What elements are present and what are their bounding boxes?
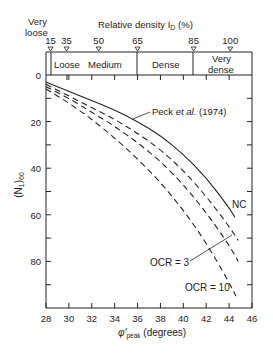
inner-minor-ticks xyxy=(69,75,229,80)
x-tick-label: 28 xyxy=(41,313,52,324)
x-axis-ticks: 28303234363840424446 xyxy=(41,303,258,324)
ocr3-label: OCR = 3 xyxy=(150,257,190,268)
x-tick-label: 38 xyxy=(155,313,166,324)
peck-leader-line xyxy=(133,112,150,119)
density-tick-label: 100 xyxy=(222,35,238,46)
zone-dense-label: Dense xyxy=(152,59,179,70)
x-tick-label: 34 xyxy=(109,313,120,324)
density-tick-marker xyxy=(96,47,101,51)
x-tick-label: 40 xyxy=(178,313,189,324)
y-axis-label: (N1)60 xyxy=(13,172,25,198)
density-tick-label: 50 xyxy=(93,35,104,46)
nc-label: NC xyxy=(232,199,246,210)
y-tick-label: 0 xyxy=(36,70,41,81)
density-tick-label: 35 xyxy=(61,35,72,46)
y-tick-label: 40 xyxy=(30,163,41,174)
top-axis-ticks: 1535506585100 xyxy=(45,35,238,51)
very-loose-label-2: loose xyxy=(25,27,48,38)
y-tick-label: 20 xyxy=(30,117,41,128)
x-tick-label: 32 xyxy=(86,313,97,324)
density-tick-marker xyxy=(48,47,53,51)
y-tick-label: 60 xyxy=(30,210,41,221)
density-tick-marker xyxy=(64,47,69,51)
x-tick-label: 30 xyxy=(64,313,75,324)
x-tick-label: 44 xyxy=(224,313,235,324)
zone-medium-label: Medium xyxy=(88,59,122,70)
density-tick-label: 85 xyxy=(188,35,199,46)
ocr10-label: OCR = 10 xyxy=(185,282,230,293)
y-tick-label: 80 xyxy=(30,256,41,267)
zone-loose-label: Loose xyxy=(54,59,80,70)
curve-ocr-10 xyxy=(46,89,236,296)
density-tick-marker xyxy=(228,47,233,51)
density-tick-label: 65 xyxy=(132,35,143,46)
chart: 1535506585100 Very loose Relative densit… xyxy=(0,0,273,356)
x-tick-label: 42 xyxy=(201,313,212,324)
x-tick-label: 46 xyxy=(247,313,258,324)
top-axis-title: Relative density ID (%) xyxy=(98,19,193,31)
density-tick-marker xyxy=(135,47,140,51)
y-axis-ticks: 020406080 xyxy=(30,70,252,285)
peck-label: Peck et al. (1974) xyxy=(152,106,226,117)
zone-very-dense-label-2: dense xyxy=(208,64,234,75)
very-loose-label-1: Very xyxy=(28,16,47,27)
zone-very-dense-label-1: Very xyxy=(212,53,231,64)
x-axis-label: φ'peak (degrees) xyxy=(118,327,186,340)
ocr3-leader-line xyxy=(190,235,232,261)
x-tick-label: 36 xyxy=(132,313,143,324)
density-tick-marker xyxy=(191,47,196,51)
